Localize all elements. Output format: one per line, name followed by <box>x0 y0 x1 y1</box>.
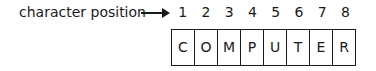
character-cell: R <box>333 30 356 65</box>
position-number: 1 <box>171 2 194 22</box>
position-number: 8 <box>334 2 357 22</box>
position-number: 3 <box>218 2 241 22</box>
position-number: 7 <box>311 2 334 22</box>
character-cells: C O M P U T E R <box>171 29 356 66</box>
position-number: 6 <box>287 2 310 22</box>
character-cell: M <box>218 30 241 65</box>
character-cell: P <box>241 30 264 65</box>
character-position-label: character position <box>19 2 146 22</box>
position-number: 4 <box>241 2 264 22</box>
character-cell: U <box>264 30 287 65</box>
character-cell: E <box>310 30 333 65</box>
position-number: 2 <box>194 2 217 22</box>
position-numbers: 1 2 3 4 5 6 7 8 <box>171 2 357 22</box>
right-arrow-icon <box>141 12 168 14</box>
character-cell: C <box>172 30 195 65</box>
character-cell: T <box>287 30 310 65</box>
position-number: 5 <box>264 2 287 22</box>
character-cell: O <box>195 30 218 65</box>
